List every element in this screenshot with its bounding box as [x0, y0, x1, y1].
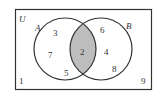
value-a-only-3: 3 — [53, 28, 58, 38]
venn-diagram: U A B 3 7 5 2 6 4 8 1 9 — [0, 0, 159, 97]
value-b-only-4: 4 — [104, 47, 109, 57]
value-a-only-7: 7 — [48, 50, 53, 60]
value-outside-1: 1 — [19, 76, 24, 86]
value-outside-9: 9 — [141, 76, 146, 86]
value-b-only-8: 8 — [112, 64, 117, 74]
set-b-label: B — [126, 21, 132, 31]
value-intersection-2: 2 — [80, 47, 85, 57]
universe-label: U — [19, 14, 26, 24]
value-a-only-5: 5 — [64, 68, 69, 78]
set-a-label: A — [34, 23, 41, 33]
value-b-only-6: 6 — [100, 25, 105, 35]
